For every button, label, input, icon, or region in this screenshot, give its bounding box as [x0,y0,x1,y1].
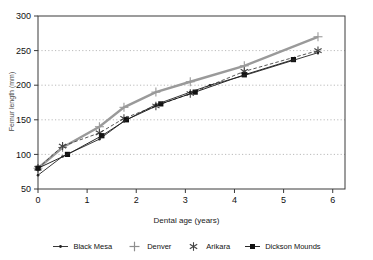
data-point [313,32,322,41]
y-tick-label: 250 [16,46,31,56]
data-point [243,74,246,77]
x-tick-label: 6 [330,195,335,205]
data-point [151,88,160,97]
series-dickson-mounds [35,57,296,171]
data-point [123,120,126,123]
data-point [189,91,192,94]
data-point [35,166,40,171]
chart-legend: Black MesaDenverArikaraDickson Mounds [0,238,373,254]
legend-label: Denver [147,242,171,251]
x-tick-label: 4 [232,195,237,205]
legend-item-denver: Denver [126,241,171,252]
data-point [186,77,195,86]
legend-label: Black Mesa [73,242,112,251]
data-point [209,84,212,87]
data-point [61,155,64,158]
chart-figure: 501001502002503000123456 Dental age (yea… [0,0,373,260]
y-tick-label: 200 [16,80,31,90]
series-black-mesa [37,51,320,176]
x-tick-label: 3 [183,195,188,205]
y-axis-title: Femur length (mm) [8,47,15,157]
legend-item-arikara: Arikara [185,241,230,252]
series-denver [34,32,323,172]
legend-label: Arikara [206,242,230,251]
plus-icon [126,241,143,252]
legend-label: Dickson Mounds [265,242,320,251]
legend-item-black-mesa: Black Mesa [52,241,112,252]
y-tick-label: 150 [16,115,31,125]
series-line [38,60,293,169]
x-tick-label: 1 [85,195,90,205]
square-line-icon [244,241,261,252]
y-tick-label: 300 [16,11,31,21]
series-line [38,53,318,175]
series-line [38,51,318,169]
data-point [37,174,40,177]
x-axis-title: Dental age (years) [0,216,373,225]
data-point [98,138,101,141]
legend-item-dickson-mounds: Dickson Mounds [244,241,320,252]
y-tick-label: 100 [16,150,31,160]
plot-frame [38,16,345,189]
x-tick-label: 0 [35,195,40,205]
data-point [155,103,158,106]
asterisk-icon [185,241,202,252]
data-point [292,59,295,62]
data-point [317,51,320,54]
small-dot-line-icon [52,241,69,252]
y-tick-label: 50 [21,184,31,194]
x-tick-label: 2 [134,195,139,205]
x-tick-label: 5 [281,195,286,205]
